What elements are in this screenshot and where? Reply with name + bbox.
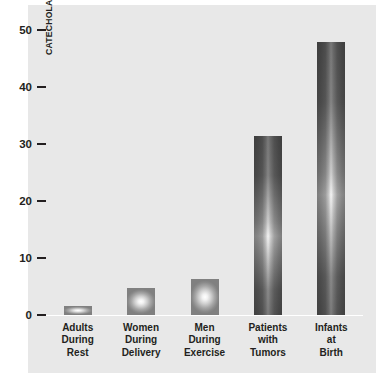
category-line-2: at: [300, 334, 363, 346]
category-line-1: Adults: [46, 322, 109, 334]
y-tick-label-50: 50: [19, 23, 32, 37]
x-axis-line: [46, 315, 363, 316]
category-line-3: Rest: [46, 347, 109, 359]
category-line-2: During: [173, 334, 236, 346]
y-tick-dash-0: [37, 314, 46, 316]
y-tick-label-30: 30: [19, 137, 32, 151]
y-tick-label-10: 10: [19, 251, 32, 265]
y-axis-tick-0: 0: [0, 308, 46, 322]
category-line-1: Patients: [236, 322, 299, 334]
category-line-2: with: [236, 334, 299, 346]
category-label-patients-with-tumors: Patients with Tumors: [236, 322, 299, 359]
category-line-3: Delivery: [109, 347, 172, 359]
y-tick-label-0: 0: [26, 308, 32, 322]
y-axis-tick-30: 30: [0, 137, 46, 151]
y-axis-tick-50: 50: [0, 23, 46, 37]
bar-men-during-exercise: [191, 279, 219, 315]
category-line-3: Birth: [300, 347, 363, 359]
y-tick-dash-40: [37, 86, 46, 88]
bar-patients-with-tumors: [254, 136, 282, 315]
category-line-3: Tumors: [236, 347, 299, 359]
bar-infants-at-birth: [317, 42, 345, 315]
category-line-1: Women: [109, 322, 172, 334]
category-line-1: Infants: [300, 322, 363, 334]
category-label-men-during-exercise: Men During Exercise: [173, 322, 236, 359]
y-tick-dash-10: [37, 257, 46, 259]
category-label-infants-at-birth: Infants at Birth: [300, 322, 363, 359]
plot-area: [46, 12, 363, 315]
y-tick-label-20: 20: [19, 194, 32, 208]
category-line-2: During: [46, 334, 109, 346]
category-label-adults-during-rest: Adults During Rest: [46, 322, 109, 359]
category-line-1: Men: [173, 322, 236, 334]
y-tick-label-40: 40: [19, 80, 32, 94]
y-axis-tick-20: 20: [0, 194, 46, 208]
y-axis-tick-40: 40: [0, 80, 46, 94]
y-tick-dash-20: [37, 200, 46, 202]
y-axis-tick-10: 10: [0, 251, 46, 265]
category-label-women-during-delivery: Women During Delivery: [109, 322, 172, 359]
category-line-2: During: [109, 334, 172, 346]
chart-figure: 0 10 20 30 40 50 CATECHOLAMINE LEVELS (N…: [0, 0, 376, 378]
bar-women-during-delivery: [127, 288, 155, 315]
bar-adults-during-rest: [64, 306, 92, 315]
y-tick-dash-30: [37, 143, 46, 145]
category-line-3: Exercise: [173, 347, 236, 359]
